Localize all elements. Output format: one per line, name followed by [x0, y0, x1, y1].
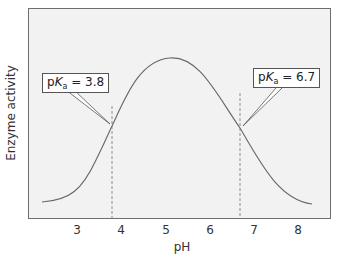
callout-text: K	[55, 75, 63, 89]
x-tick-3: 3	[73, 223, 81, 237]
pka-callout-left: pKa = 3.8	[42, 73, 109, 93]
x-axis-label: pH	[174, 240, 191, 254]
callout-pointer-left	[66, 90, 110, 124]
callout-value: = 6.7	[278, 70, 315, 84]
pka-callout-right: pKa = 6.7	[253, 68, 320, 88]
y-axis-label: Enzyme activity	[4, 65, 18, 161]
x-tick-5: 5	[162, 223, 170, 237]
x-tick-8: 8	[294, 223, 302, 237]
x-tick-4: 4	[117, 223, 125, 237]
chart-svg	[0, 0, 341, 258]
callout-pointer-right	[243, 88, 282, 126]
callout-text: p	[258, 70, 266, 84]
x-tick-7: 7	[250, 223, 258, 237]
callout-value: = 3.8	[67, 75, 104, 89]
x-tick-6: 6	[206, 223, 214, 237]
callout-text: p	[47, 75, 55, 89]
callout-text: K	[266, 70, 274, 84]
